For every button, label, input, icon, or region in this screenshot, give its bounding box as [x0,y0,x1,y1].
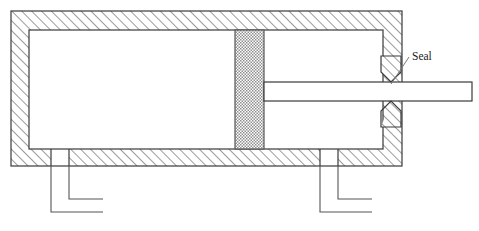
piston-block [235,30,264,149]
seal-cross-section-diagram: Seal [0,0,479,231]
diagram-root: Seal [0,0,479,231]
piston-rod [264,82,472,101]
seal-label: Seal [412,50,432,62]
